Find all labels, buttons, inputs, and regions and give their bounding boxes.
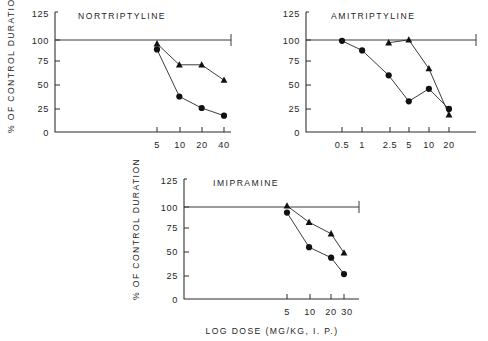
series-line-triangle <box>389 40 449 115</box>
y-tick-75-imipramine: 75 <box>167 223 178 233</box>
figure-svg: % OF CONTROL DURATION 125 100 75 50 25 0… <box>0 0 488 341</box>
panel-imipramine: % OF CONTROL DURATION 125 100 75 50 25 0… <box>131 158 359 336</box>
y-tick-0-nortriptyline: 0 <box>43 128 49 138</box>
axis-spine-nortriptyline <box>55 12 231 132</box>
series-group-nortriptyline <box>154 40 228 119</box>
y-tick-100-amitriptyline: 100 <box>283 36 300 46</box>
y-tick-0-amitriptyline: 0 <box>294 128 300 138</box>
y-tick-75-nortriptyline: 75 <box>38 56 49 66</box>
y-axis-label-imipramine: % OF CONTROL DURATION <box>131 158 141 300</box>
x-tick-30-imipramine: 30 <box>341 307 352 317</box>
panel-title-imipramine: IMIPRAMINE <box>213 178 279 188</box>
data-point-triangle <box>284 202 291 208</box>
axis-spine-imipramine <box>184 179 359 299</box>
y-tick-125-imipramine: 125 <box>161 176 178 186</box>
x-tick-5-amitriptyline: 5 <box>406 140 412 150</box>
data-point-circle <box>221 113 227 119</box>
data-point-triangle <box>306 219 313 225</box>
data-point-circle <box>406 98 412 104</box>
data-point-triangle <box>446 111 453 117</box>
y-tick-50-imipramine: 50 <box>167 247 178 257</box>
y-tick-0-imipramine: 0 <box>172 295 178 305</box>
y-tick-125-nortriptyline: 125 <box>32 9 49 19</box>
data-point-circle <box>176 93 182 99</box>
x-tick-40-nortriptyline: 40 <box>218 140 229 150</box>
x-axis-label-imipramine: LOG DOSE (MG/KG, I. P.) <box>206 326 339 336</box>
x-tick-10-imipramine: 10 <box>304 307 315 317</box>
x-tick-1-amitriptyline: 1 <box>359 140 365 150</box>
x-tick-20-amitriptyline: 20 <box>443 140 454 150</box>
panel-amitriptyline: 125 100 75 50 25 0 0.5 1 2.5 5 10 20 <box>283 9 476 150</box>
x-tick-5-imipramine: 5 <box>284 307 290 317</box>
series-line-triangle <box>157 44 224 80</box>
y-tick-100-imipramine: 100 <box>161 203 178 213</box>
series-line-circle <box>287 213 344 274</box>
y-tick-125-amitriptyline: 125 <box>283 9 300 19</box>
data-point-circle <box>328 255 334 261</box>
data-point-circle <box>199 105 205 111</box>
panel-nortriptyline: % OF CONTROL DURATION 125 100 75 50 25 0… <box>6 0 231 150</box>
series-line-circle <box>157 49 224 115</box>
y-tick-50-amitriptyline: 50 <box>289 80 300 90</box>
data-point-circle <box>386 72 392 78</box>
x-tick-10-nortriptyline: 10 <box>174 140 185 150</box>
data-point-triangle <box>328 230 335 236</box>
data-point-circle <box>341 271 347 277</box>
data-point-circle <box>306 244 312 250</box>
figure-container: % OF CONTROL DURATION 125 100 75 50 25 0… <box>0 0 488 341</box>
series-line-triangle <box>287 206 344 253</box>
y-tick-25-imipramine: 25 <box>167 271 178 281</box>
y-tick-75-amitriptyline: 75 <box>289 56 300 66</box>
series-group-amitriptyline <box>339 36 453 117</box>
data-point-circle <box>359 47 365 53</box>
y-tick-25-nortriptyline: 25 <box>38 104 49 114</box>
x-tick-5-nortriptyline: 5 <box>154 140 160 150</box>
y-tick-25-amitriptyline: 25 <box>289 104 300 114</box>
x-tick-10-amitriptyline: 10 <box>423 140 434 150</box>
x-tick-05-amitriptyline: 0.5 <box>335 140 350 150</box>
data-point-triangle <box>221 77 228 83</box>
series-line-circle <box>342 41 449 109</box>
data-point-circle <box>446 106 452 112</box>
y-tick-100-nortriptyline: 100 <box>32 36 49 46</box>
data-point-triangle <box>154 40 161 46</box>
data-point-circle <box>339 38 345 44</box>
y-axis-label-nortriptyline: % OF CONTROL DURATION <box>6 0 16 133</box>
data-point-circle <box>154 46 160 52</box>
x-tick-25-amitriptyline: 2.5 <box>383 140 398 150</box>
data-point-triangle <box>341 249 348 255</box>
panel-title-amitriptyline: AMITRIPTYLINE <box>331 11 415 21</box>
panel-title-nortriptyline: NORTRIPTYLINE <box>78 11 166 21</box>
data-point-circle <box>426 86 432 92</box>
x-tick-20-imipramine: 20 <box>325 307 336 317</box>
data-point-circle <box>284 210 290 216</box>
data-point-triangle <box>405 36 412 42</box>
x-tick-20-nortriptyline: 20 <box>196 140 207 150</box>
series-group-imipramine <box>284 202 348 277</box>
y-tick-50-nortriptyline: 50 <box>38 80 49 90</box>
